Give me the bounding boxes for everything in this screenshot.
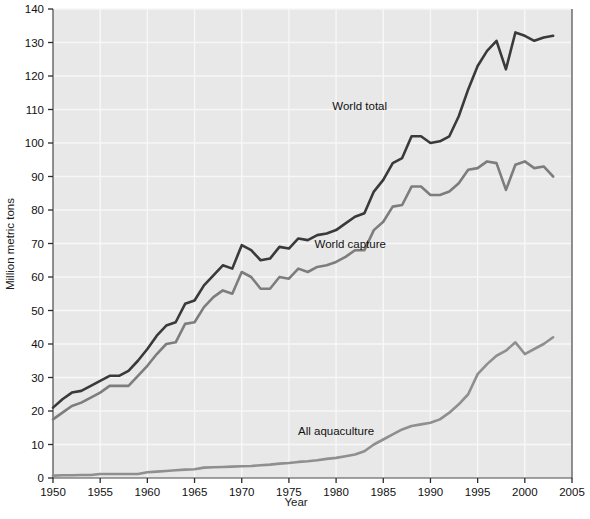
y-tick-label: 90 [31, 171, 44, 183]
x-tick-label: 1970 [229, 486, 255, 498]
y-tick-label: 80 [31, 204, 44, 216]
x-tick-label: 1965 [182, 486, 208, 498]
series-label-world-total: World total [332, 100, 387, 112]
y-tick-label: 50 [31, 305, 44, 317]
x-axis-title: Year [284, 496, 307, 508]
y-tick-label: 120 [25, 70, 44, 82]
y-tick-label: 0 [38, 472, 44, 484]
y-tick-label: 60 [31, 271, 44, 283]
y-tick-label: 100 [25, 137, 44, 149]
chart-figure: 0102030405060708090100110120130140 19501… [0, 0, 590, 519]
y-tick-label: 30 [31, 372, 44, 384]
x-tick-label: 2005 [559, 486, 585, 498]
x-tick-label: 1960 [135, 486, 161, 498]
y-tick-label: 40 [31, 338, 44, 350]
fisheries-production-line-chart: 0102030405060708090100110120130140 19501… [0, 0, 590, 519]
x-tick-label: 1955 [87, 486, 113, 498]
y-tick-label: 140 [25, 3, 44, 15]
y-tick-label: 110 [26, 104, 44, 116]
x-tick-label: 1990 [418, 486, 444, 498]
series-label-world-capture: World capture [315, 238, 386, 250]
y-tick-label: 20 [31, 405, 44, 417]
x-tick-label: 1980 [323, 486, 349, 498]
x-tick-label: 1985 [370, 486, 396, 498]
x-tick-label: 1995 [465, 486, 491, 498]
y-tick-label: 70 [31, 238, 44, 250]
y-tick-label: 10 [31, 439, 44, 451]
series-label-all-aquaculture: All aquaculture [298, 425, 374, 437]
y-axis-title: Million metric tons [4, 198, 16, 290]
y-tick-label: 130 [25, 37, 44, 49]
x-tick-label: 1950 [40, 486, 66, 498]
x-tick-label: 2000 [512, 486, 538, 498]
